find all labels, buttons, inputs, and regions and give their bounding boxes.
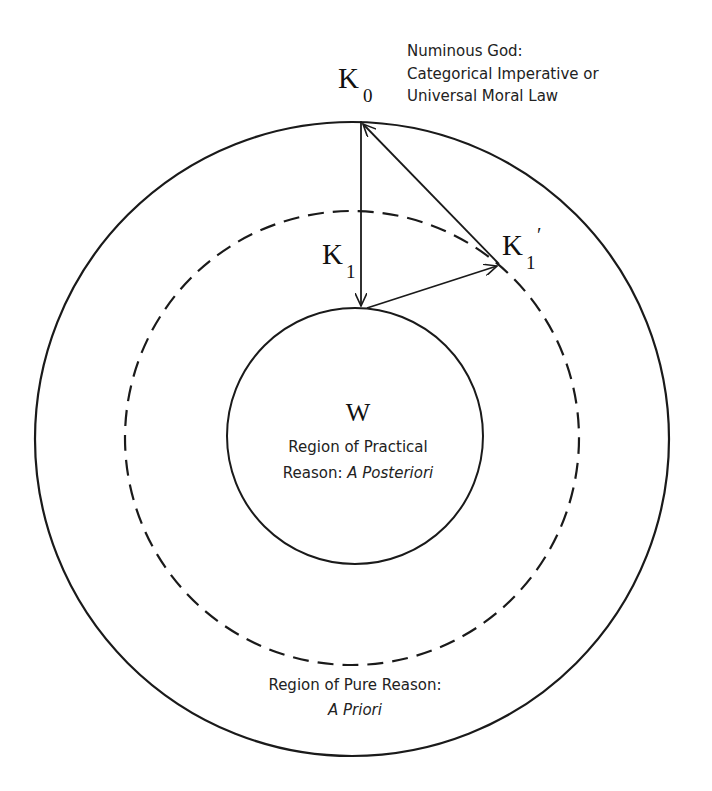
inner-circle-practical-reason xyxy=(227,308,483,564)
pure-line-1: Region of Pure Reason: xyxy=(268,676,441,694)
k1prime-subscript: 1 xyxy=(526,252,536,273)
arrow-k1prime-to-k0 xyxy=(363,124,499,264)
pure-reason-annotation: Region of Pure Reason: A Priori xyxy=(268,676,441,719)
k0-subscript: 0 xyxy=(363,85,373,106)
practical-reason-annotation: Region of Practical Reason: A Posteriori xyxy=(283,438,434,482)
k1-subscript: 1 xyxy=(346,261,356,282)
node-k1: K 1 xyxy=(322,238,356,282)
k1prime-prime-mark: ′ xyxy=(537,224,541,246)
god-line-1: Numinous God: xyxy=(407,42,523,60)
god-line-3: Universal Moral Law xyxy=(407,87,558,105)
k1prime-label: K xyxy=(502,229,523,261)
pure-line-2: A Priori xyxy=(327,701,383,719)
diagram-canvas: K 0 Numinous God: Categorical Imperative… xyxy=(0,0,712,791)
k1-label: K xyxy=(322,238,343,270)
k0-label: K xyxy=(338,62,359,94)
practical-line-2-italic: A Posteriori xyxy=(346,464,434,482)
practical-line-2: Reason: A Posteriori xyxy=(283,464,434,482)
god-annotation: Numinous God: Categorical Imperative or … xyxy=(407,42,599,105)
node-k0: K 0 xyxy=(338,62,373,106)
node-k1-prime: K 1 ′ xyxy=(502,224,541,273)
arrow-w-to-k1prime xyxy=(367,266,497,308)
node-w-label: W xyxy=(346,398,371,427)
god-line-2: Categorical Imperative or xyxy=(407,65,599,83)
practical-line-1: Region of Practical xyxy=(288,438,427,456)
practical-line-2-plain: Reason: xyxy=(283,464,348,482)
